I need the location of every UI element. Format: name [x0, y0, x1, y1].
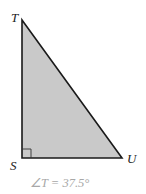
- vertex-label-s: S: [10, 158, 17, 173]
- triangle-tsu: [22, 20, 122, 158]
- vertex-label-u: U: [127, 151, 138, 166]
- vertex-label-t: T: [11, 10, 19, 25]
- triangle-diagram: T S U ∠T = 37.5°: [0, 0, 146, 194]
- angle-caption: ∠T = 37.5°: [30, 176, 89, 190]
